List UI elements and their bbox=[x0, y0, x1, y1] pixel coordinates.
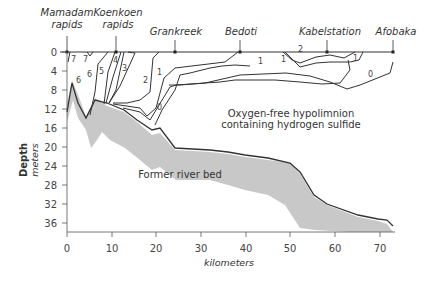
contour-label: 6 bbox=[87, 70, 92, 79]
oxygen-profile-diagram: 7 7 6 6 5 4 3 2 1 0 1 1 2 1 0 Mamadam ra… bbox=[0, 0, 424, 286]
y-axis-unit: meters bbox=[29, 143, 40, 177]
x-tick-label: 20 bbox=[150, 243, 163, 254]
contour-label: 6 bbox=[76, 76, 81, 85]
y-tick-label: 12 bbox=[44, 104, 57, 115]
river-bed-label: Former river bed bbox=[138, 169, 222, 180]
x-tick-label: 0 bbox=[64, 243, 70, 254]
contour-label: 5 bbox=[99, 67, 104, 76]
y-tick-label: 4 bbox=[51, 66, 57, 77]
y-tick-label: 16 bbox=[44, 123, 57, 134]
x-tick-label: 10 bbox=[106, 243, 119, 254]
x-tick-label: 50 bbox=[284, 243, 297, 254]
site-label: Grankreek bbox=[150, 26, 204, 37]
contour-label: 7 bbox=[71, 55, 76, 64]
site-label: rapids bbox=[52, 19, 83, 30]
site-bedoti: Bedoti bbox=[225, 26, 257, 54]
contour-label: 1 bbox=[281, 55, 286, 64]
site-label: Koenkoen bbox=[93, 7, 142, 18]
x-tick-label: 30 bbox=[195, 243, 208, 254]
site-koenkoen-rapids: Koenkoen rapids bbox=[93, 7, 142, 54]
contour-label: 1 bbox=[353, 54, 358, 63]
contour-2-lower bbox=[113, 52, 238, 116]
x-axis-title: kilometers bbox=[204, 257, 254, 268]
x-axis: 0 10 20 30 40 50 60 70 kilometers bbox=[64, 232, 395, 268]
contour-label: 1 bbox=[157, 68, 162, 77]
contour-2 bbox=[113, 52, 159, 103]
site-label: rapids bbox=[103, 19, 134, 30]
contour-label: 1 bbox=[258, 57, 263, 66]
site-label: Afobaka bbox=[375, 26, 417, 37]
contour-label: 3 bbox=[122, 64, 127, 73]
site-label: Mamadam bbox=[41, 7, 94, 18]
y-tick-label: 8 bbox=[51, 85, 57, 96]
hypolimnion-label: Oxygen-free hypolimnion bbox=[228, 108, 355, 119]
site-mamadam-rapids: Mamadam rapids bbox=[41, 7, 94, 54]
contour-label: 2 bbox=[143, 76, 148, 85]
y-tick-label: 0 bbox=[51, 47, 57, 58]
site-label: Kabelstation bbox=[299, 26, 361, 37]
site-markers: Mamadam rapids Koenkoen rapids Grankreek… bbox=[41, 7, 417, 54]
x-tick-label: 60 bbox=[329, 243, 342, 254]
site-kabelstation: Kabelstation bbox=[299, 26, 361, 54]
y-axis-title: Depth bbox=[18, 143, 29, 177]
y-tick-label: 24 bbox=[44, 161, 57, 172]
contour-label: 0 bbox=[368, 70, 373, 79]
y-axis: 0 4 8 12 16 20 24 28 32 36 Depth meters bbox=[18, 47, 67, 232]
contour-label: 7 bbox=[83, 55, 88, 64]
hypolimnion-label: containing hydrogen sulfide bbox=[221, 119, 361, 130]
contour-label: 0 bbox=[157, 103, 162, 112]
y-tick-label: 32 bbox=[44, 199, 57, 210]
site-afobaka: Afobaka bbox=[375, 26, 417, 54]
y-tick-label: 36 bbox=[44, 218, 57, 229]
site-grankreek: Grankreek bbox=[150, 26, 204, 54]
x-tick-label: 40 bbox=[240, 243, 253, 254]
contour-label: 2 bbox=[298, 45, 303, 54]
contour-label: 4 bbox=[113, 56, 118, 65]
x-tick-label: 70 bbox=[374, 243, 387, 254]
site-label: Bedoti bbox=[225, 26, 257, 37]
y-tick-label: 28 bbox=[44, 180, 57, 191]
contour-0-right bbox=[169, 62, 393, 89]
y-tick-label: 20 bbox=[44, 142, 57, 153]
